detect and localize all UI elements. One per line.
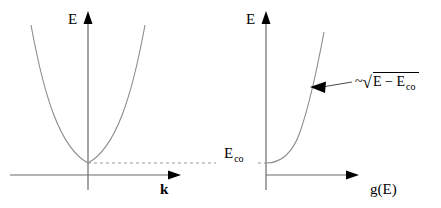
physics-figure: E k E Eco g(E) ~√E − Eco xyxy=(0,0,441,208)
radicand-second-subscript: co xyxy=(405,81,415,92)
E-axis-arrowhead-right xyxy=(262,11,271,24)
left-panel-group xyxy=(10,11,216,190)
right-panel-group xyxy=(258,11,359,190)
radicand-minus-sign: − xyxy=(385,74,393,89)
sqrt-annotation-formula: ~√E − Eco xyxy=(355,72,419,92)
threshold-energy-label: Eco xyxy=(224,146,244,164)
radical-sign-icon: √ xyxy=(363,74,372,91)
annotation-arrowhead xyxy=(310,82,326,94)
proportional-tilde: ~ xyxy=(355,74,363,89)
threshold-energy-symbol: E xyxy=(224,145,233,161)
density-of-states-curve xyxy=(266,32,324,163)
gE-axis-arrowhead xyxy=(346,171,359,180)
x-axis-label-k: k xyxy=(160,182,168,197)
y-axis-label-left: E xyxy=(68,12,77,27)
threshold-energy-subscript: co xyxy=(233,153,243,164)
k-axis-arrowhead xyxy=(168,171,181,180)
figure-canvas xyxy=(0,0,441,208)
y-axis-label-right: E xyxy=(246,12,255,27)
annotation-leader-line xyxy=(322,82,352,87)
radicand-group: E − Eco xyxy=(373,72,419,92)
radicand-first-term: E xyxy=(373,74,382,89)
x-axis-label-gE: g(E) xyxy=(370,182,397,197)
E-axis-arrowhead-left xyxy=(84,11,93,24)
radicand-second-term: E xyxy=(396,74,405,89)
